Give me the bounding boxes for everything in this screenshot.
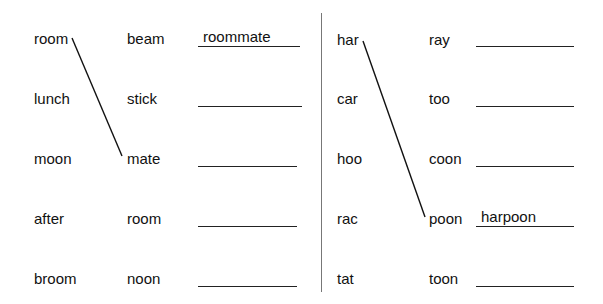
right-answer-3[interactable]	[476, 148, 574, 167]
left-word-1: room	[34, 30, 68, 48]
left-word-2: lunch	[34, 90, 70, 108]
right-answer-5[interactable]	[476, 268, 574, 287]
left-suffix-3: mate	[127, 150, 160, 168]
right-answer-1[interactable]	[476, 28, 574, 47]
left-answer-1[interactable]: roommate	[198, 28, 300, 47]
left-answer-4[interactable]	[198, 208, 297, 227]
right-suffix-2: too	[429, 90, 450, 108]
left-suffix-4: room	[127, 210, 161, 228]
left-suffix-2: stick	[127, 90, 157, 108]
left-word-4: after	[34, 210, 64, 228]
left-word-5: broom	[34, 270, 77, 288]
right-word-5: tat	[337, 270, 354, 288]
right-suffix-3: coon	[429, 150, 462, 168]
left-answer-3[interactable]	[198, 148, 297, 167]
right-word-3: hoo	[337, 150, 362, 168]
right-word-1: har	[337, 31, 359, 49]
left-suffix-5: noon	[127, 270, 160, 288]
right-suffix-1: ray	[429, 31, 450, 49]
right-suffix-4: poon	[429, 210, 462, 228]
right-answer-4[interactable]: harpoon	[476, 208, 574, 227]
left-word-3: moon	[34, 150, 72, 168]
left-answer-2[interactable]	[198, 88, 302, 107]
right-suffix-5: toon	[429, 270, 458, 288]
right-word-2: car	[337, 90, 358, 108]
left-answer-5[interactable]	[198, 268, 297, 287]
left-suffix-1: beam	[127, 30, 165, 48]
right-answer-2[interactable]	[476, 88, 574, 107]
right-word-4: rac	[337, 210, 358, 228]
